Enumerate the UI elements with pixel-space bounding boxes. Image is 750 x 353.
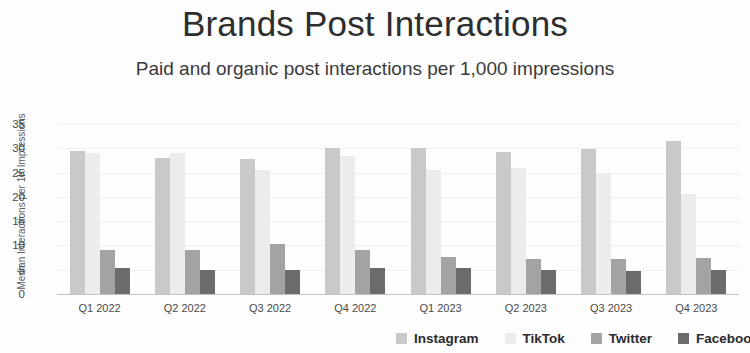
- bar: [581, 149, 596, 294]
- chart-figure: Brands Post Interactions Paid and organi…: [0, 0, 750, 353]
- chart-subtitle: Paid and organic post interactions per 1…: [0, 58, 750, 80]
- chart-title: Brands Post Interactions: [0, 4, 750, 44]
- bar: [255, 170, 270, 294]
- y-axis-tick-label: 30: [0, 142, 25, 154]
- bar: [441, 257, 456, 294]
- legend-swatch-icon: [505, 333, 516, 344]
- x-axis-tick-label: Q4 2023: [675, 302, 717, 314]
- legend-swatch-icon: [678, 333, 689, 344]
- bar-group: [398, 124, 483, 294]
- bar: [411, 148, 426, 294]
- bar: [596, 173, 611, 294]
- legend-item-twitter[interactable]: Twitter: [591, 331, 652, 346]
- y-axis-tick-label: 10: [0, 239, 25, 251]
- x-axis-tick-label: Q1 2022: [79, 302, 121, 314]
- bar: [70, 151, 85, 294]
- bar: [185, 250, 200, 294]
- legend-swatch-icon: [396, 333, 407, 344]
- bar-group: [483, 124, 568, 294]
- legend-label: Twitter: [609, 331, 652, 346]
- x-axis-tick-label: Q2 2023: [505, 302, 547, 314]
- x-axis-tick-label: Q4 2022: [334, 302, 376, 314]
- bar: [170, 153, 185, 294]
- x-axis-tick-label: Q1 2023: [420, 302, 462, 314]
- chart-legend: InstagramTikTokTwitterFacebook: [396, 331, 750, 346]
- y-axis-tick-label: 25: [0, 167, 25, 179]
- bar-group: [228, 124, 313, 294]
- bar: [456, 268, 471, 294]
- legend-item-facebook[interactable]: Facebook: [678, 331, 750, 346]
- bar: [370, 268, 385, 294]
- y-axis-tick-label: 0: [0, 288, 25, 300]
- bar: [115, 268, 130, 294]
- bar: [681, 194, 696, 294]
- y-axis-tick-label: 15: [0, 215, 25, 227]
- legend-swatch-icon: [591, 333, 602, 344]
- bar: [496, 152, 511, 294]
- plot-area: 05101520253035: [57, 124, 739, 295]
- bar: [511, 168, 526, 294]
- legend-label: Instagram: [414, 331, 479, 346]
- bar: [200, 270, 215, 294]
- legend-item-instagram[interactable]: Instagram: [396, 331, 479, 346]
- bar-group: [654, 124, 739, 294]
- legend-item-tiktok[interactable]: TikTok: [505, 331, 565, 346]
- bar-group: [569, 124, 654, 294]
- bar: [325, 148, 340, 294]
- bar: [426, 170, 441, 294]
- bar-group: [142, 124, 227, 294]
- bar: [626, 271, 641, 294]
- bar: [666, 141, 681, 294]
- bar: [240, 159, 255, 294]
- bar: [711, 270, 726, 294]
- bar: [100, 250, 115, 294]
- y-axis-tick-label: 35: [0, 118, 25, 130]
- legend-label: TikTok: [523, 331, 565, 346]
- bar: [526, 259, 541, 294]
- bar: [611, 259, 626, 294]
- y-axis-tick-label: 20: [0, 191, 25, 203]
- x-axis-tick-label: Q2 2022: [164, 302, 206, 314]
- bar: [541, 270, 556, 294]
- y-axis-tick-label: 5: [0, 264, 25, 276]
- bar: [270, 244, 285, 294]
- legend-label: Facebook: [696, 331, 750, 346]
- bar: [340, 156, 355, 294]
- bar-group: [57, 124, 142, 294]
- bar: [355, 250, 370, 294]
- bar-group: [313, 124, 398, 294]
- bar: [155, 158, 170, 294]
- bar: [696, 258, 711, 294]
- bar: [85, 153, 100, 294]
- x-axis-tick-label: Q3 2023: [590, 302, 632, 314]
- x-axis-tick-label: Q3 2022: [249, 302, 291, 314]
- bar: [285, 270, 300, 294]
